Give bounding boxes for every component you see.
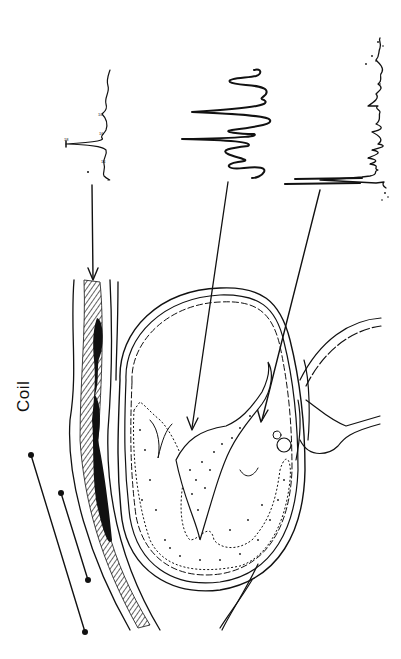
svg-text:10: 10	[98, 112, 103, 117]
coil-terminal	[28, 452, 34, 458]
diagram-canvas: 18 10 16 14	[0, 0, 401, 659]
svg-text:16: 16	[99, 131, 104, 136]
spectrum-2	[182, 70, 270, 178]
spectrum-3	[285, 38, 389, 201]
arrow-1	[88, 185, 98, 280]
svg-text:18: 18	[64, 137, 69, 142]
coil-terminal	[58, 490, 64, 496]
surface-coil	[28, 452, 91, 635]
heart	[118, 288, 305, 591]
rib-structure	[296, 318, 381, 460]
coil-terminal	[82, 629, 88, 635]
coil-label: Coil	[14, 381, 34, 412]
lower-vessel	[220, 564, 258, 630]
coil-terminal	[85, 577, 91, 583]
spectrum-1: 18 10 16 14	[64, 70, 110, 180]
svg-text:14: 14	[101, 159, 106, 164]
